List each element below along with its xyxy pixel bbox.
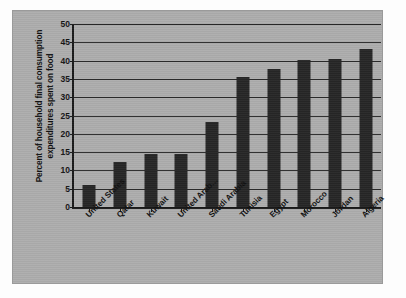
x-axis-label-slot: United Arab… <box>164 211 195 291</box>
x-axis-labels: United StatesQatarKuwaitUnited Arab…Saud… <box>72 211 379 291</box>
bar[interactable] <box>328 59 341 207</box>
y-axis-tick-label: 45 <box>61 37 70 47</box>
bar-slot <box>289 24 320 207</box>
y-axis-tick-label: 20 <box>61 129 70 139</box>
x-axis-label-slot: Kuwait <box>133 211 164 291</box>
y-axis-tick-label: 40 <box>61 56 70 66</box>
bar[interactable] <box>175 154 188 207</box>
bar[interactable] <box>359 49 372 207</box>
y-axis-title: Percent of household final consumption e… <box>34 11 56 201</box>
bar[interactable] <box>267 69 280 207</box>
bar-slot <box>258 24 289 207</box>
bar-slot <box>320 24 351 207</box>
y-axis-tick-label: 15 <box>61 147 70 157</box>
bar[interactable] <box>298 60 311 207</box>
bar-slot <box>135 24 166 207</box>
bar-slot <box>350 24 381 207</box>
chart-panel: Percent of household final consumption e… <box>13 11 382 283</box>
x-axis-label-slot: Egypt <box>256 211 287 291</box>
y-axis-tick-label: 5 <box>65 184 70 194</box>
bar-slot <box>74 24 105 207</box>
y-axis-tick-label: 30 <box>61 92 70 102</box>
x-axis-label-slot: Qatar <box>103 211 134 291</box>
y-axis-tick-label: 10 <box>61 165 70 175</box>
y-axis-tick-mark <box>70 207 74 208</box>
y-axis-tick-label: 35 <box>61 74 70 84</box>
x-axis-label-slot: Morocco <box>287 211 318 291</box>
x-axis-label-slot: Algeria <box>348 211 379 291</box>
y-axis-tick-label: 25 <box>61 111 70 121</box>
x-axis-label-slot: United States <box>72 211 103 291</box>
bar[interactable] <box>206 122 219 207</box>
bar-slot <box>166 24 197 207</box>
x-axis-label-slot: Saudi Arabia <box>195 211 226 291</box>
bar[interactable] <box>144 154 157 207</box>
x-axis-label-slot: Jordan <box>318 211 349 291</box>
x-axis-label-slot: Tunisia <box>226 211 257 291</box>
y-axis-tick-label: 50 <box>61 19 70 29</box>
y-axis-tick-label: 0 <box>65 202 70 212</box>
chart-figure: Percent of household final consumption e… <box>0 0 406 298</box>
